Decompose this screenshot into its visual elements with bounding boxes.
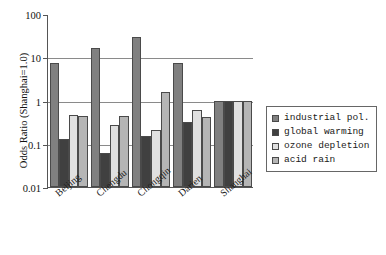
bar — [224, 101, 234, 188]
y-axis-tick-label: 100 — [25, 10, 41, 21]
legend-item[interactable]: ozone depletion — [272, 139, 370, 153]
bar — [50, 63, 60, 187]
bar — [132, 37, 142, 187]
legend-item[interactable]: acid rain — [272, 153, 370, 167]
legend-swatch-icon — [272, 115, 279, 122]
legend-item[interactable]: global warming — [272, 125, 370, 139]
plot-area: 1001010.10.01 — [47, 15, 253, 188]
legend-swatch-icon — [272, 129, 279, 136]
legend-label: acid rain — [284, 155, 335, 165]
legend-swatch-icon — [272, 157, 279, 164]
x-axis-labels: BeijingChengduChongqinDarienShanghai — [47, 190, 253, 252]
y-axis-tick-label: 10 — [31, 53, 42, 64]
legend-label: industrial pol. — [284, 113, 370, 123]
legend-label: global warming — [284, 127, 364, 137]
bar-group — [214, 15, 252, 187]
bar-series-layer — [48, 15, 253, 187]
legend-item[interactable]: industrial pol. — [272, 111, 370, 125]
chart-container: Odds Ratio (Shanghai=1.0) 1001010.10.01 … — [0, 0, 386, 255]
bar — [91, 48, 101, 187]
y-axis-tick-label: 0.01 — [23, 183, 41, 194]
bar — [173, 63, 183, 187]
bar — [202, 117, 212, 187]
bar-group — [91, 15, 129, 187]
legend-label: ozone depletion — [284, 141, 370, 151]
y-axis-tick-label: 1 — [36, 96, 41, 107]
bar-group — [132, 15, 170, 187]
bar — [214, 101, 224, 188]
y-axis-title: Odds Ratio (Shanghai=1.0) — [18, 26, 29, 196]
legend-swatch-icon — [272, 143, 279, 150]
bar-group — [173, 15, 211, 187]
chart-legend: industrial pol.global warmingozone deple… — [266, 106, 377, 172]
y-axis-tick — [43, 188, 48, 189]
bar-group — [50, 15, 88, 187]
y-axis-tick-label: 0.1 — [28, 139, 41, 150]
